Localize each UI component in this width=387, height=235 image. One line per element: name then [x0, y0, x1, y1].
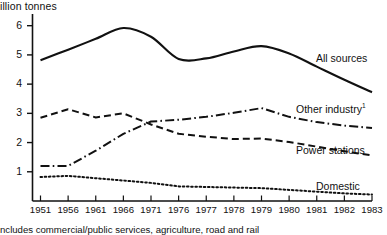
- y-tick-label: 4: [6, 77, 22, 89]
- y-tick-label: 6: [6, 19, 22, 31]
- chart-footnote: ncludes commercial/public services, agri…: [0, 224, 259, 235]
- x-tick-label: 1983: [356, 204, 387, 215]
- y-tick-label: 1: [6, 165, 22, 177]
- series-label-power-stations: Power stations: [296, 144, 365, 156]
- y-tick-label: 2: [6, 136, 22, 148]
- series-label-domestic: Domestic: [316, 180, 360, 192]
- footnote-marker-other-industry: 1: [362, 102, 366, 109]
- y-tick-label: 5: [6, 48, 22, 60]
- x-axis-ticks: [41, 196, 373, 202]
- series-label-all-sources: All sources: [316, 52, 367, 64]
- y-tick-label: 3: [6, 106, 22, 118]
- series-label-other-industry: Other industry1: [296, 102, 366, 115]
- series-line-other-industry: [41, 108, 373, 166]
